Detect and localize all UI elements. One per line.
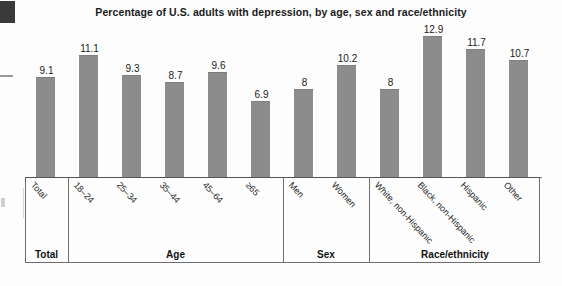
bar-slot: 10.2 <box>326 30 369 178</box>
group-label: Sex <box>283 249 369 260</box>
bar-value-label: 8 <box>283 77 326 88</box>
bar[interactable] <box>208 72 227 178</box>
bar[interactable] <box>79 55 98 178</box>
bar-slot: 10.7 <box>498 30 541 178</box>
group-label: Total <box>25 249 68 260</box>
bar[interactable] <box>423 36 442 178</box>
bar-slot: 8.7 <box>154 30 197 178</box>
chart-title: Percentage of U.S. adults with depressio… <box>0 6 562 18</box>
plot-area: 9.111.19.38.79.66.9810.2812.911.710.7 <box>25 30 540 178</box>
bar-slot: 9.3 <box>111 30 154 178</box>
bar-slot: 11.1 <box>68 30 111 178</box>
chart-canvas: Percentage of U.S. adults with depressio… <box>0 0 562 286</box>
bar[interactable] <box>122 75 141 178</box>
bar-slot: 11.7 <box>455 30 498 178</box>
bar-slot: 9.1 <box>25 30 68 178</box>
scan-artifact-line <box>23 188 24 218</box>
bar[interactable] <box>509 60 528 178</box>
bar[interactable] <box>294 89 313 178</box>
bar-slot: 8 <box>369 30 412 178</box>
bar-slot: 9.6 <box>197 30 240 178</box>
bar[interactable] <box>36 77 55 178</box>
bar-value-label: 10.2 <box>326 53 369 64</box>
bar-value-label: 6.9 <box>240 89 283 100</box>
bar-value-label: 11.1 <box>68 43 111 54</box>
scan-artifact-tick <box>0 75 13 77</box>
group-label: Age <box>68 249 283 260</box>
bar[interactable] <box>251 101 270 178</box>
bar-value-label: 8.7 <box>154 70 197 81</box>
bar-value-label: 12.9 <box>412 24 455 35</box>
bar-slot: 6.9 <box>240 30 283 178</box>
bar-value-label: 9.3 <box>111 63 154 74</box>
bar[interactable] <box>337 65 356 178</box>
bar[interactable] <box>380 89 399 178</box>
group-label: Race/ethnicity <box>369 249 541 260</box>
bar-value-label: 11.7 <box>455 37 498 48</box>
bar[interactable] <box>165 82 184 178</box>
bar-value-label: 8 <box>369 77 412 88</box>
bar-value-label: 10.7 <box>498 48 541 59</box>
bar-slot: 12.9 <box>412 30 455 178</box>
bar-value-label: 9.6 <box>197 60 240 71</box>
scan-artifact-mark <box>1 198 5 207</box>
bar[interactable] <box>466 49 485 178</box>
bar-value-label: 9.1 <box>25 65 68 76</box>
bar-slot: 8 <box>283 30 326 178</box>
